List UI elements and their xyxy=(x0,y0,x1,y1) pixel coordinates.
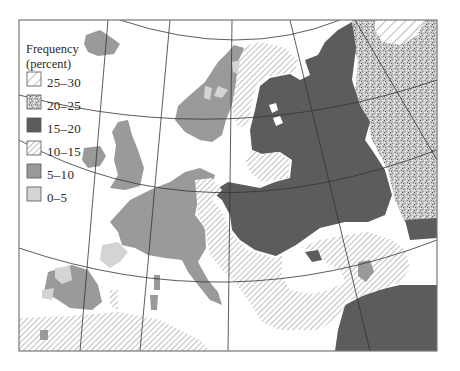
legend-item-25-30: 25–30 xyxy=(47,71,81,94)
legend-item-0-5: 0–5 xyxy=(47,186,81,209)
legend: Frequency (percent) xyxy=(26,42,116,72)
legend-title: Frequency xyxy=(26,42,116,57)
legend-item-10-15: 10–15 xyxy=(47,140,81,163)
legend-subtitle: (percent) xyxy=(26,57,116,72)
legend-item-5-10: 5–10 xyxy=(47,163,81,186)
legend-item-20-25: 20–25 xyxy=(47,94,81,117)
legend-item-15-20: 15–20 xyxy=(47,117,81,140)
